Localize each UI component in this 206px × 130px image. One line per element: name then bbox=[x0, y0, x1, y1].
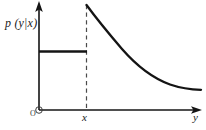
x-tick-label: x bbox=[82, 112, 87, 123]
decaying-tail-curve bbox=[87, 5, 202, 90]
probability-density-figure: p (y|x) x y O bbox=[0, 0, 206, 130]
x-axis-label: y bbox=[193, 112, 198, 123]
y-axis-label: p (y|x) bbox=[5, 17, 37, 29]
origin-label: O bbox=[30, 110, 36, 118]
